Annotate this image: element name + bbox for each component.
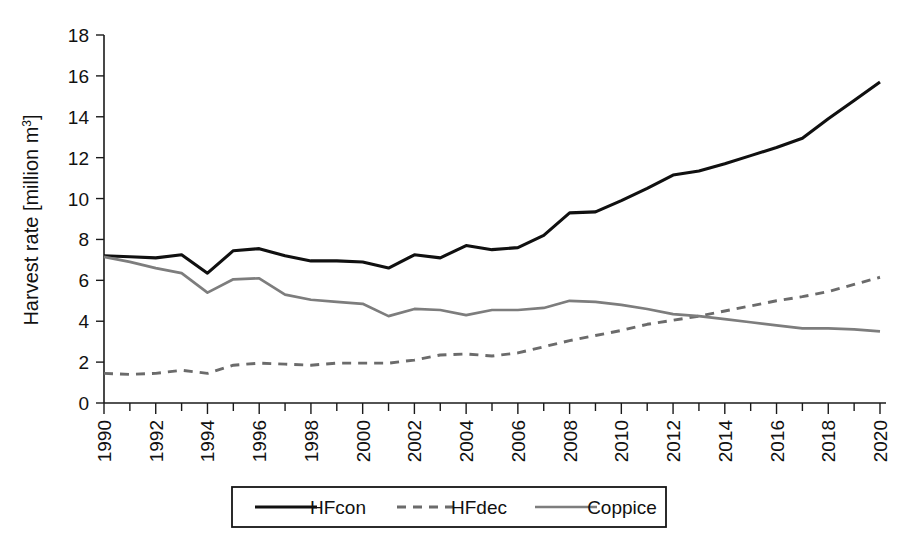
x-tick-label: 2020 (870, 420, 891, 462)
y-tick-label: 12 (68, 148, 89, 169)
x-tick-label: 1998 (301, 420, 322, 462)
y-axis-ticks: 024681012141618 (68, 25, 104, 414)
x-tick-label: 2002 (404, 420, 425, 462)
legend-label-hfcon: HFcon (310, 497, 366, 518)
legend-label-hfdec: HFdec (451, 497, 507, 518)
x-tick-label: 2006 (508, 420, 529, 462)
legend-label-coppice: Coppice (587, 497, 657, 518)
chart-figure: Harvest rate [million m3] 02468101214161… (0, 0, 916, 552)
y-tick-label: 16 (68, 66, 89, 87)
series-line-hfdec (104, 277, 880, 374)
x-tick-label: 1992 (146, 420, 167, 462)
x-tick-label: 2014 (715, 420, 736, 463)
x-tick-label: 1996 (249, 420, 270, 462)
x-tick-label: 1990 (94, 420, 115, 462)
y-tick-label: 4 (78, 311, 89, 332)
y-tick-label: 18 (68, 25, 89, 46)
x-tick-label: 2000 (353, 420, 374, 462)
y-tick-label: 2 (78, 352, 89, 373)
series-line-hfcon (104, 82, 880, 273)
x-tick-label: 2016 (767, 420, 788, 462)
series-lines (104, 82, 880, 374)
series-line-coppice (104, 257, 880, 332)
chart-legend: HFconHFdecCoppice (232, 487, 666, 527)
y-tick-label: 10 (68, 189, 89, 210)
y-tick-label: 0 (78, 393, 89, 414)
x-tick-label: 2008 (560, 420, 581, 462)
y-axis-label-base: Harvest rate [million m (20, 127, 42, 326)
x-tick-label: 2012 (663, 420, 684, 462)
x-axis-minor-ticks (130, 403, 854, 411)
line-chart-svg: Harvest rate [million m3] 02468101214161… (0, 0, 916, 552)
x-tick-label: 2018 (818, 420, 839, 462)
y-axis-label: Harvest rate [million m3] (20, 114, 42, 325)
y-tick-label: 14 (68, 107, 90, 128)
x-tick-label: 1994 (197, 420, 218, 463)
x-tick-label: 2010 (611, 420, 632, 462)
svg-text:Harvest rate [million m3]: Harvest rate [million m3] (20, 114, 42, 325)
y-axis-label-close: ] (20, 114, 42, 120)
y-tick-label: 8 (78, 229, 89, 250)
x-axis-ticks: 1990199219941996199820002002200420062008… (94, 403, 891, 462)
y-tick-label: 6 (78, 270, 89, 291)
x-tick-label: 2004 (456, 420, 477, 463)
